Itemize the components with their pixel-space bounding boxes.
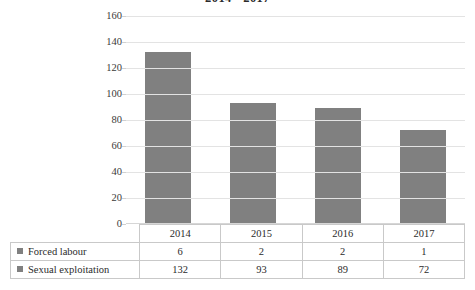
gridline — [126, 120, 465, 121]
y-axis-tick-label: 20 — [88, 193, 122, 203]
table-cell: 2 — [221, 243, 302, 261]
table-cell: 2 — [302, 243, 383, 261]
table-column-header: 2016 — [302, 225, 383, 243]
y-axis-tick-mark — [122, 146, 126, 147]
y-axis-tick-label: 160 — [88, 11, 122, 21]
y-axis-tick-mark — [122, 172, 126, 173]
gridline — [126, 16, 465, 17]
bar — [230, 103, 276, 224]
y-axis-tick-label: 140 — [88, 37, 122, 47]
y-axis-tick-labels: 160140120100806040200 — [88, 16, 122, 224]
y-axis-tick-mark — [122, 16, 126, 17]
table-cell: 93 — [221, 261, 302, 279]
legend-swatch-icon — [17, 248, 23, 254]
gridline — [126, 146, 465, 147]
y-axis-tick-mark — [122, 94, 126, 95]
chart-screenshot: 2014 - 2017 160140120100806040200 201420… — [0, 0, 475, 290]
legend-swatch-icon — [17, 266, 23, 272]
table-row: Sexual exploitation132938972 — [11, 261, 465, 279]
gridline — [126, 172, 465, 173]
table-row: Forced labour6221 — [11, 243, 465, 261]
bar — [400, 130, 446, 224]
y-axis-tick-label: 100 — [88, 89, 122, 99]
y-axis-tick-label: 120 — [88, 63, 122, 73]
table-column-header: 2015 — [221, 225, 302, 243]
data-table-body: 2014201520162017Forced labour6221Sexual … — [11, 225, 465, 279]
legend-row-label: Forced labour — [11, 243, 140, 261]
plot-area — [126, 16, 465, 224]
gridline — [126, 94, 465, 95]
legend-series-name: Forced labour — [28, 247, 87, 258]
legend-series-name: Sexual exploitation — [28, 265, 109, 276]
table-column-header: 2014 — [140, 225, 221, 243]
y-axis-tick-mark — [122, 224, 126, 225]
gridline — [126, 198, 465, 199]
y-axis-tick-label: 80 — [88, 115, 122, 125]
chart-title: 2014 - 2017 — [0, 0, 475, 6]
y-axis-tick-mark — [122, 42, 126, 43]
y-axis-tick-label: 40 — [88, 167, 122, 177]
table-cell: 6 — [140, 243, 221, 261]
y-axis-tick-mark — [122, 198, 126, 199]
table-cell: 72 — [383, 261, 464, 279]
legend-row-label: Sexual exploitation — [11, 261, 140, 279]
y-axis-tick-mark — [122, 120, 126, 121]
y-axis-tick-mark — [122, 68, 126, 69]
table-cell: 1 — [383, 243, 464, 261]
data-table: 2014201520162017Forced labour6221Sexual … — [10, 224, 465, 279]
table-header-row: 2014201520162017 — [11, 225, 465, 243]
y-axis-tick-label: 60 — [88, 141, 122, 151]
table-cell: 132 — [140, 261, 221, 279]
gridline — [126, 42, 465, 43]
gridline — [126, 68, 465, 69]
table-cell: 89 — [302, 261, 383, 279]
bar — [315, 108, 361, 224]
table-corner-cell — [11, 225, 140, 243]
table-column-header: 2017 — [383, 225, 464, 243]
